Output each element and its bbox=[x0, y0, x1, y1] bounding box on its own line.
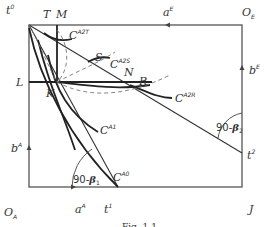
right-axis-arrow-icon bbox=[240, 65, 245, 70]
budget-line-t0-t2 bbox=[29, 25, 242, 153]
label-CA1: CA1 bbox=[100, 123, 116, 137]
label-angle-beta2: 90-β2 bbox=[216, 122, 243, 134]
edgeworth-box-diagram: t0 OE OA J aE bE bA aA T M L K S N R t1 … bbox=[0, 0, 272, 227]
label-CA2R: CA2R bbox=[175, 91, 196, 105]
label-t0: t0 bbox=[6, 3, 14, 17]
label-CA0: CA0 bbox=[113, 170, 130, 184]
dashed-curve-2 bbox=[57, 30, 67, 82]
label-aA: aA bbox=[75, 202, 86, 216]
label-N: N bbox=[123, 66, 134, 79]
label-T: T bbox=[43, 8, 52, 21]
label-bE: bE bbox=[249, 63, 260, 77]
label-S: S bbox=[95, 51, 103, 64]
left-axis-arrow-icon bbox=[27, 145, 32, 150]
label-angle-beta1: 90-β1 bbox=[73, 174, 100, 186]
label-OA: OA bbox=[4, 206, 17, 220]
edgeworth-box-frame bbox=[29, 25, 242, 187]
label-OE: OE bbox=[242, 6, 255, 20]
label-CA2T: CA2T bbox=[69, 28, 90, 42]
label-J: J bbox=[247, 203, 254, 216]
top-axis-arrow-icon bbox=[165, 23, 170, 28]
curve-CA1 bbox=[48, 55, 98, 132]
label-t2: t2 bbox=[247, 148, 255, 162]
curve-CA2T bbox=[44, 33, 72, 40]
label-t1: t1 bbox=[104, 202, 112, 216]
label-bA: bA bbox=[11, 141, 22, 155]
budget-line-t0-t1 bbox=[29, 25, 118, 187]
label-aE: aE bbox=[163, 5, 174, 19]
label-R: R bbox=[138, 75, 147, 88]
label-L: L bbox=[15, 76, 23, 89]
figure-caption: Fig. 1.1 bbox=[122, 222, 157, 227]
label-K: K bbox=[45, 87, 55, 100]
label-M: M bbox=[55, 8, 68, 21]
curve-CA2R bbox=[130, 85, 172, 98]
